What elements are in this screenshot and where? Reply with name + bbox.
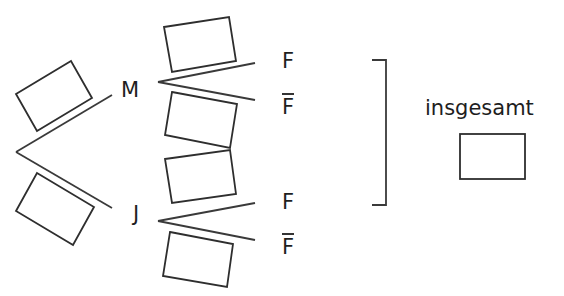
probability-box-j-f[interactable]: [165, 150, 236, 203]
probability-box-m[interactable]: [16, 61, 92, 131]
node-label-m: M: [121, 78, 139, 102]
leaf-label-j-f: F: [282, 190, 294, 214]
probability-box-j[interactable]: [16, 173, 94, 245]
leaf-label-m-not-f: F: [282, 95, 294, 119]
leaf-label-j-not-f: F: [282, 235, 294, 259]
node-label-j: J: [131, 202, 139, 226]
probability-box-m-f[interactable]: [164, 17, 236, 72]
edge-j-to-f: [158, 203, 255, 221]
probability-box-j-not-f[interactable]: [163, 232, 233, 287]
total-value-box[interactable]: [460, 134, 525, 179]
leaf-label-m-f: F: [282, 49, 294, 73]
probability-box-m-not-f[interactable]: [165, 92, 237, 148]
total-label: insgesamt: [425, 96, 534, 120]
probability-tree-diagram: M J F F F F insgesamt: [0, 0, 564, 296]
grouping-bracket: [372, 60, 386, 205]
